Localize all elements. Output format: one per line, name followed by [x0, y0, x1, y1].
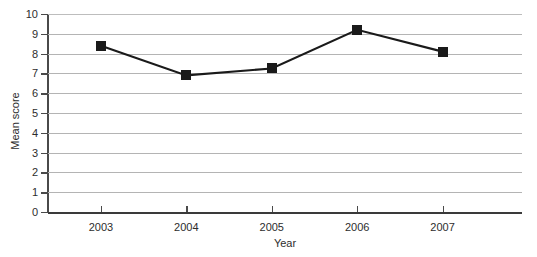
- y-axis-tick: [41, 172, 47, 173]
- data-point-marker: [438, 47, 448, 57]
- x-axis-tick: [101, 206, 102, 212]
- data-point-marker: [96, 41, 106, 51]
- y-axis-tick-label: 10: [14, 8, 38, 20]
- x-axis-tick: [186, 206, 187, 212]
- x-axis-tick-label: 2005: [260, 221, 284, 233]
- x-axis-tick-label: 2003: [89, 221, 113, 233]
- y-axis-tick: [41, 133, 47, 134]
- y-axis-tick: [41, 113, 47, 114]
- x-axis-tick: [443, 206, 444, 212]
- y-axis-tick-label: 3: [14, 147, 38, 159]
- data-point-marker: [181, 70, 191, 80]
- line-chart-figure: Mean score 012345678910 2003200420052006…: [0, 0, 537, 257]
- y-axis-tick: [41, 54, 47, 55]
- x-axis-tick-labels: 20032004200520062007: [48, 213, 522, 233]
- x-axis-tick-label: 2006: [345, 221, 369, 233]
- y-axis-tick-label: 0: [14, 206, 38, 218]
- x-axis-title: Year: [48, 237, 522, 249]
- x-axis-tick-label: 2004: [174, 221, 198, 233]
- x-axis-tick-label: 2007: [430, 221, 454, 233]
- plot-area: [48, 14, 522, 212]
- data-point-marker: [352, 25, 362, 35]
- y-axis-tick-label: 5: [14, 107, 38, 119]
- y-axis-tick-label: 1: [14, 186, 38, 198]
- y-axis-tick-label: 8: [14, 48, 38, 60]
- y-axis-tick: [41, 212, 47, 213]
- y-axis-tick-label: 2: [14, 166, 38, 178]
- data-point-marker: [267, 63, 277, 73]
- y-axis-tick: [41, 34, 47, 35]
- y-axis-tick-label: 6: [14, 87, 38, 99]
- y-axis-tick-label: 4: [14, 127, 38, 139]
- y-axis-tick: [41, 73, 47, 74]
- y-axis-tick: [41, 153, 47, 154]
- x-axis-tick: [357, 206, 358, 212]
- y-axis-tick: [41, 192, 47, 193]
- series-line: [48, 14, 522, 212]
- y-axis-tick: [41, 14, 47, 15]
- y-axis-tick: [41, 93, 47, 94]
- x-axis-tick: [272, 206, 273, 212]
- y-axis-tick-label: 7: [14, 67, 38, 79]
- y-axis-tick-labels: 012345678910: [8, 0, 38, 257]
- y-axis-tick-label: 9: [14, 28, 38, 40]
